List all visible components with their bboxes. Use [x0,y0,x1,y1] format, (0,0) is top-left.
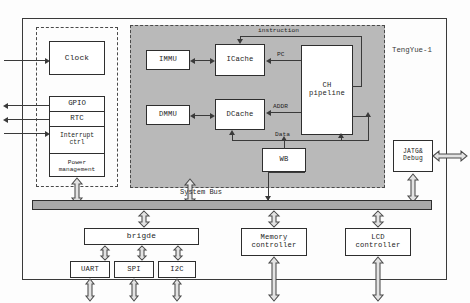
dmmu-block[interactable]: DMMU [146,105,190,125]
i2c-block[interactable]: I2C [158,261,196,278]
uart-external-arrow [84,278,96,302]
bus-to-memory-arrow [267,210,281,228]
spi-external-arrow [128,278,140,302]
addr-line [270,112,301,113]
instruction-line-top-horiz [240,36,362,37]
immu-block[interactable]: IMMU [146,50,190,70]
data-right-to-pipeline [353,116,369,117]
instruction-label: instruction [258,27,299,34]
bus-to-bridge-arrow [137,210,151,228]
rtc-block[interactable]: RTC [50,112,104,127]
bridge-to-uart-arrow [99,245,111,261]
bridge-to-spi-arrow [136,245,148,261]
instruction-arrowhead [237,39,243,44]
bridge-block[interactable]: brigde [84,228,199,245]
rtc-output-arrowhead [3,117,8,123]
bridge-to-i2c-arrow [172,245,184,261]
data-right-branch-vert [368,116,369,141]
dcache-block[interactable]: DCache [215,99,265,130]
i2c-external-arrow [171,278,183,302]
pc-arrowhead [266,58,271,64]
cpu-pipeline-block[interactable]: CH pipeline [301,45,353,135]
interrupt-input-line [4,133,46,134]
data-to-dcache-arrowhead [229,130,235,135]
icache-block[interactable]: ICache [215,44,265,76]
memory-external-arrow [267,256,281,302]
memory-controller-block[interactable]: Memory controller [241,228,307,256]
rtc-output-line [7,119,52,120]
gpio-output-line [7,105,52,106]
clock-input-line [4,60,46,61]
wb-up-arrowhead [281,136,287,141]
addr-label: ADDR [273,103,288,110]
debug-external-arrow [432,149,468,163]
bus-to-lcd-arrow [371,210,385,228]
clock-block[interactable]: Clock [49,41,105,75]
power-management-block[interactable]: Power management [50,154,104,179]
uart-block[interactable]: UART [70,261,110,278]
gpio-block[interactable]: GPIO [50,97,104,112]
data-bus-line [232,140,368,141]
dcache-bus-stub-vert [304,172,305,173]
debug-to-bus-arrow [406,173,420,203]
system-bus [32,200,432,210]
dmmu-dcache-arrowhead-left [190,113,195,119]
chip-label: TengYue-1 [392,46,432,54]
interrupt-ctrl-block[interactable]: Interrupt ctrl [50,127,104,154]
peripheral-stack: GPIO RTC Interrupt ctrl Power management [49,96,105,177]
pc-label: PC [277,51,284,58]
gpio-output-arrowhead [3,103,8,109]
addr-arrowhead [266,110,271,116]
instruction-line-right-vert [361,36,362,86]
immu-icache-arrowhead-left [190,58,195,64]
dcache-bus-stub [268,172,304,173]
data-to-pipeline-arrowhead [338,133,344,138]
figure-canvas: Clock GPIO RTC Interrupt ctrl Power mana… [0,0,470,303]
jtag-debug-block[interactable]: JATG& Debug [393,140,433,172]
wb-block[interactable]: WB [262,148,306,172]
system-bus-label: System Bus [180,188,222,196]
immu-icache-arrowhead-right [210,58,215,64]
wb-up-line [284,141,285,149]
spi-block[interactable]: SPI [114,261,154,278]
pc-line [270,60,301,61]
lcd-controller-block[interactable]: LCD controller [345,228,411,256]
lcd-external-arrow [371,256,385,302]
data-to-pipeline-vert [341,138,342,141]
instruction-line-to-pipeline [352,86,362,87]
dmmu-dcache-arrowhead-right [210,113,215,119]
